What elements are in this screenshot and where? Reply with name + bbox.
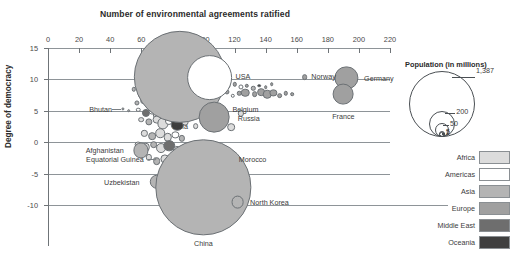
point-label-norway: Norway — [311, 71, 335, 80]
region-legend-item[interactable]: Africa — [405, 150, 510, 165]
region-legend-swatch — [479, 236, 510, 249]
cloud-bubble[interactable] — [228, 123, 236, 131]
x-tick-label: 160 — [291, 35, 303, 44]
point-label-belgium: Belgium — [232, 105, 258, 114]
cloud-bubble[interactable] — [251, 86, 255, 90]
region-legend-item[interactable]: Europe — [405, 201, 510, 216]
cloud-bubble[interactable] — [127, 109, 131, 113]
population-leader-line — [452, 77, 475, 78]
region-legend-swatch — [479, 168, 510, 181]
gridline — [48, 205, 448, 206]
cloud-bubble[interactable] — [258, 84, 262, 88]
x-tick — [328, 48, 329, 53]
y-tick — [44, 48, 49, 49]
cloud-bubble[interactable] — [134, 101, 139, 106]
region-legend-label: Europe — [452, 204, 475, 213]
region-legend-label: Oceania — [448, 238, 475, 247]
bubble-china[interactable] — [156, 140, 251, 235]
x-tick-label: 40 — [106, 35, 114, 44]
region-legend-swatch — [479, 151, 510, 164]
population-legend-value: 200 — [456, 107, 468, 116]
x-tick-label: 20 — [75, 35, 83, 44]
cloud-bubble[interactable] — [270, 83, 274, 87]
y-tick-label: 0 — [34, 138, 38, 147]
region-legend-item[interactable]: Americas — [405, 167, 510, 182]
cloud-bubble[interactable] — [245, 83, 249, 87]
cloud-bubble[interactable] — [179, 135, 185, 141]
x-tick — [266, 48, 267, 53]
y-tick — [44, 79, 49, 80]
x-tick-label: 220 — [384, 35, 396, 44]
y-tick-label: 10 — [30, 75, 38, 84]
cloud-bubble[interactable] — [264, 85, 268, 89]
population-legend-title: Population (in millions) — [405, 60, 513, 69]
cloud-bubble[interactable] — [277, 93, 283, 99]
x-tick — [390, 48, 391, 53]
point-label-india: India — [172, 122, 188, 131]
point-label-bhutan: Bhutan — [89, 104, 112, 113]
x-tick-label: 0 — [46, 35, 50, 44]
x-tick — [235, 48, 236, 53]
y-tick-label: 5 — [34, 106, 38, 115]
point-label-uzbekistan: Uzbekistan — [104, 177, 140, 186]
label-leader-line — [112, 109, 121, 110]
y-tick — [44, 205, 49, 206]
region-legend-item[interactable]: Middle East — [405, 218, 510, 233]
region-legend: AfricaAmericasAsiaEuropeMiddle EastOcean… — [405, 150, 510, 252]
cloud-bubble[interactable] — [193, 123, 199, 129]
cloud-bubble[interactable] — [138, 117, 144, 123]
cloud-bubble[interactable] — [231, 94, 235, 98]
y-tick — [44, 142, 49, 143]
bubble-russia[interactable] — [199, 102, 230, 133]
bubble-france[interactable] — [333, 84, 354, 105]
y-tick-label: -5 — [31, 169, 38, 178]
x-tick — [110, 48, 111, 53]
x-tick-label: 180 — [322, 35, 334, 44]
bubble-norway[interactable] — [302, 74, 308, 80]
x-tick-label: 60 — [137, 35, 145, 44]
point-label-north-korea: North Korea — [250, 198, 289, 207]
region-legend-label: Middle East — [437, 221, 475, 230]
cloud-bubble[interactable] — [141, 130, 147, 136]
gridline — [48, 48, 390, 49]
region-legend-label: Africa — [457, 153, 475, 162]
population-leader-line — [445, 113, 455, 114]
label-leader-line — [148, 159, 154, 160]
region-legend-item[interactable]: Oceania — [405, 235, 510, 250]
point-label-usa: USA — [236, 71, 251, 80]
region-legend-item[interactable]: Asia — [405, 184, 510, 199]
x-tick — [297, 48, 298, 53]
bubble-north-korea[interactable] — [231, 196, 244, 209]
point-label-germany: Germany — [364, 74, 394, 83]
population-legend-value: 1 — [446, 128, 450, 137]
bubble-usa[interactable] — [187, 55, 233, 101]
y-tick — [44, 174, 49, 175]
region-legend-swatch — [479, 219, 510, 232]
region-legend-label: Asia — [461, 187, 475, 196]
y-axis-title: Degree of democracy — [4, 65, 13, 148]
point-label-china: China — [194, 239, 213, 248]
cloud-bubble[interactable] — [284, 91, 288, 95]
population-legend: Population (in millions) 1,3872005051 — [405, 60, 513, 139]
plot-area: 020406080100120140160180200220 151050-5-… — [48, 48, 390, 205]
population-legend-value: 1,387 — [476, 66, 494, 75]
population-leader-line — [442, 134, 445, 135]
region-legend-swatch — [479, 202, 510, 215]
region-legend-label: Americas — [445, 170, 475, 179]
population-legend-value: 50 — [450, 119, 458, 128]
y-axis-line — [48, 48, 49, 246]
point-label-morocco: Morocco — [239, 154, 267, 163]
cloud-bubble[interactable] — [290, 93, 294, 97]
bubble-belgium[interactable] — [241, 88, 249, 96]
x-tick-label: 120 — [228, 35, 240, 44]
x-tick-label: 200 — [353, 35, 365, 44]
x-tick — [359, 48, 360, 53]
population-legend-circles: 1,3872005051 — [405, 73, 513, 139]
y-tick — [44, 111, 49, 112]
region-legend-swatch — [479, 185, 510, 198]
cloud-bubble[interactable] — [232, 82, 236, 86]
bubble-chart: Number of environmental agreements ratif… — [0, 0, 514, 258]
chart-title: Number of environmental agreements ratif… — [0, 9, 390, 19]
y-tick-label: -10 — [27, 201, 38, 210]
x-tick — [79, 48, 80, 53]
